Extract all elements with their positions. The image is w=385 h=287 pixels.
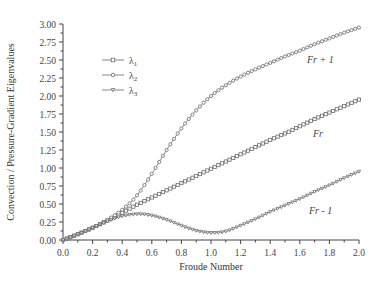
- x-tick-label: 1.6: [294, 248, 306, 258]
- x-tick-label: 0.6: [146, 248, 158, 258]
- annotations: Fr + 1 Fr Fr - 1: [306, 54, 334, 216]
- y-tick-label: 0.75: [39, 182, 56, 192]
- y-tick-label: 0.25: [39, 218, 56, 228]
- x-tick-label: 0.4: [116, 248, 128, 258]
- legend-item-2: λ2: [102, 70, 138, 84]
- y-tick-label: 2.50: [39, 56, 56, 66]
- legend-item-3: λ3: [102, 85, 138, 99]
- y-tick-label: 0.00: [39, 236, 56, 246]
- y-tick-label: 2.75: [39, 38, 56, 48]
- annotation-fr-minus-1: Fr - 1: [308, 205, 332, 216]
- legend: λ1λ2λ3: [102, 55, 138, 99]
- annotation-fr: Fr: [312, 128, 323, 139]
- x-tick-label: 1.4: [264, 248, 276, 258]
- legend-item-1: λ1: [102, 55, 138, 69]
- x-tick-label: 1.2: [235, 248, 247, 258]
- y-tick-label: 2.00: [39, 92, 56, 102]
- eigenvalue-chart: 0.00.20.40.60.81.01.21.41.61.82.00.000.2…: [0, 0, 385, 287]
- x-tick-label: 0.8: [175, 248, 187, 258]
- y-tick-label: 0.50: [39, 200, 56, 210]
- y-tick-label: 1.75: [39, 110, 56, 120]
- y-tick-label: 2.25: [39, 74, 56, 84]
- y-axis-title: Convection / Pressure-Gradient Eigenvalu…: [5, 43, 16, 221]
- y-tick-label: 1.50: [39, 128, 56, 138]
- x-tick-label: 1.0: [205, 248, 217, 258]
- y-tick-label: 1.25: [39, 146, 56, 156]
- legend-label: λ1: [129, 55, 138, 69]
- legend-label: λ3: [129, 85, 138, 99]
- x-tick-label: 1.8: [323, 248, 335, 258]
- x-axis-title: Froude Number: [179, 261, 243, 272]
- x-tick-label: 2.0: [353, 248, 365, 258]
- x-tick-label: 0.0: [57, 248, 69, 258]
- x-tick-label: 0.2: [87, 248, 99, 258]
- annotation-fr-plus-1: Fr + 1: [306, 54, 334, 65]
- y-tick-label: 3.00: [39, 20, 56, 30]
- y-tick-label: 1.00: [39, 164, 56, 174]
- legend-label: λ2: [129, 70, 138, 84]
